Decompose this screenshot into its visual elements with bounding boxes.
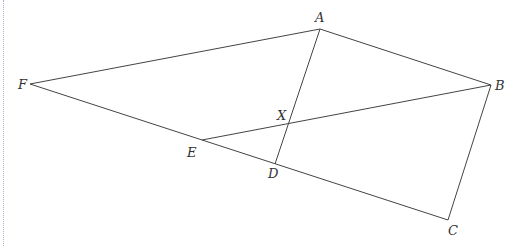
segment-ab bbox=[320, 29, 491, 85]
point-label-c: C bbox=[448, 223, 458, 238]
segment-fa bbox=[30, 29, 320, 84]
segments bbox=[30, 29, 491, 220]
segment-eb bbox=[202, 85, 491, 140]
point-label-e: E bbox=[186, 145, 197, 160]
segment-ad bbox=[275, 29, 320, 164]
point-label-b: B bbox=[494, 78, 505, 93]
point-label-a: A bbox=[314, 10, 324, 25]
segment-cf bbox=[30, 84, 448, 220]
point-label-d: D bbox=[267, 166, 279, 181]
point-label-f: F bbox=[17, 77, 28, 92]
point-labels: ABCDEFX bbox=[17, 10, 505, 238]
geometry-diagram: ABCDEFX bbox=[0, 0, 520, 246]
segment-bc bbox=[448, 85, 491, 220]
point-label-x: X bbox=[276, 108, 287, 123]
